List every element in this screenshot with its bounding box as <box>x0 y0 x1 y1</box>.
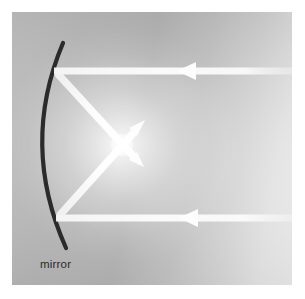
incoming-ray-lower <box>56 209 292 227</box>
figure-canvas: mirror <box>0 0 305 299</box>
focus-point-highlight <box>111 134 133 156</box>
incoming-ray-upper <box>54 62 292 80</box>
mirror-label: mirror <box>40 258 71 270</box>
reflected-ray-lower-to-focus <box>59 120 145 216</box>
reflected-ray-upper-to-focus <box>57 73 144 167</box>
optics-ray-diagram <box>0 0 305 299</box>
arrowhead-left-lower <box>179 209 198 227</box>
arrowhead-left-upper <box>177 62 196 80</box>
